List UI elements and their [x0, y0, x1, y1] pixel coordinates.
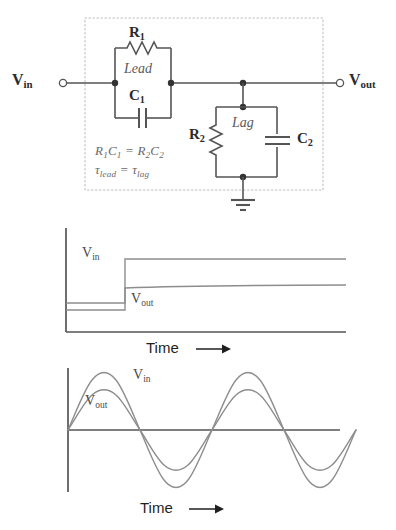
step-response-plot	[66, 228, 346, 353]
sine-plot-vin-label: Vin	[133, 368, 151, 382]
step-plot-xlabel: Time	[146, 340, 179, 355]
node-dot-lead-input	[112, 80, 118, 86]
node-dot-lead-output	[168, 80, 174, 86]
sine-plot-vout-label: Vout	[85, 394, 107, 408]
lead-section-label: Lead	[124, 62, 152, 76]
step-plot-vout-label: Vout	[131, 292, 153, 306]
sine-plot-xlabel: Time	[140, 500, 173, 515]
equation-tau-equality: τlead = τlag	[95, 163, 149, 176]
sine-plot-time-arrow-icon	[189, 505, 224, 514]
vin-terminal-icon	[59, 79, 66, 86]
lag-section-label: Lag	[232, 116, 254, 130]
equation-time-constants-products: R1C1 = R2C2	[95, 144, 164, 157]
r2-resistor-icon	[210, 107, 222, 177]
sine-response-plot	[68, 368, 356, 513]
r1-resistor-icon	[115, 42, 171, 54]
ground-icon	[231, 200, 255, 210]
vout-terminal-icon	[336, 79, 343, 86]
step-trace-vin	[66, 259, 346, 303]
circuit-schematic	[59, 18, 343, 210]
r1-label: R1	[129, 25, 145, 40]
step-plot-vin-label: Vin	[82, 246, 100, 260]
vin-terminal-label: Vin	[12, 72, 33, 88]
c1-label: C1	[129, 88, 145, 103]
vout-terminal-label: Vout	[349, 72, 376, 88]
figure-canvas	[0, 0, 396, 530]
step-trace-vout	[66, 285, 346, 310]
r2-label: R2	[189, 127, 205, 142]
figure-root: Vin Vout R1 C1 R2 C2 Lead Lag R1C1 = R2C…	[0, 0, 396, 530]
step-plot-time-arrow-icon	[196, 345, 231, 354]
c2-label: C2	[297, 131, 313, 146]
